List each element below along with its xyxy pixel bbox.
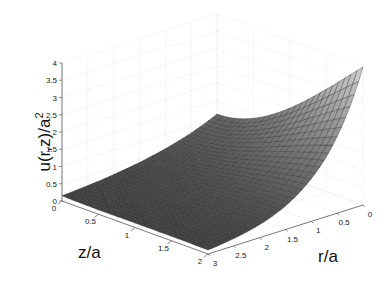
r-over-a-axis-label: r/a [318,247,338,266]
surface-plot: 00.511.522.533.54 00.511.52 00.511.522.5… [0,0,388,283]
svg-text:1.5: 1.5 [287,235,299,244]
svg-text:1: 1 [316,226,321,235]
svg-text:1: 1 [125,231,130,240]
svg-text:0.5: 0.5 [339,218,351,227]
svg-text:1.5: 1.5 [158,244,170,253]
svg-text:3: 3 [53,94,58,103]
svg-text:0.5: 0.5 [85,217,97,226]
svg-text:2: 2 [264,243,269,252]
vertical-axis-label: u(r,z)/a2 [33,112,54,171]
surface-mesh [62,67,363,250]
svg-text:0.5: 0.5 [46,180,58,189]
svg-text:4: 4 [53,59,58,68]
svg-text:2.5: 2.5 [46,111,58,120]
svg-text:3: 3 [213,259,218,268]
svg-text:0: 0 [368,210,373,219]
svg-text:0: 0 [52,204,57,213]
svg-text:3.5: 3.5 [46,76,58,85]
svg-text:2: 2 [198,257,203,266]
z-over-a-axis-label: z/a [78,243,101,262]
svg-text:2.5: 2.5 [235,251,247,260]
